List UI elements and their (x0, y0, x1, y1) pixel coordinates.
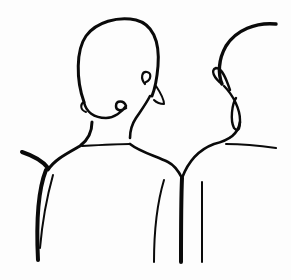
left-shoulder-right (130, 144, 182, 178)
illustration-canvas: Line drawing of two figures seen from be… (0, 0, 291, 280)
center-back-line (181, 178, 182, 262)
right-head (219, 24, 276, 84)
two-figures-drawing (0, 0, 291, 280)
left-head (78, 19, 158, 102)
left-neck-curl (84, 102, 126, 119)
left-figure (22, 19, 182, 262)
left-neck-right (130, 96, 150, 138)
right-figure (181, 24, 276, 262)
left-back-right (154, 180, 164, 262)
left-shoulder-top (82, 144, 130, 146)
right-shoulder-top (226, 144, 276, 148)
left-ear-curl (142, 72, 150, 84)
right-neck (224, 86, 240, 130)
left-arm-stub (22, 152, 48, 168)
right-neck-lower (182, 122, 240, 178)
